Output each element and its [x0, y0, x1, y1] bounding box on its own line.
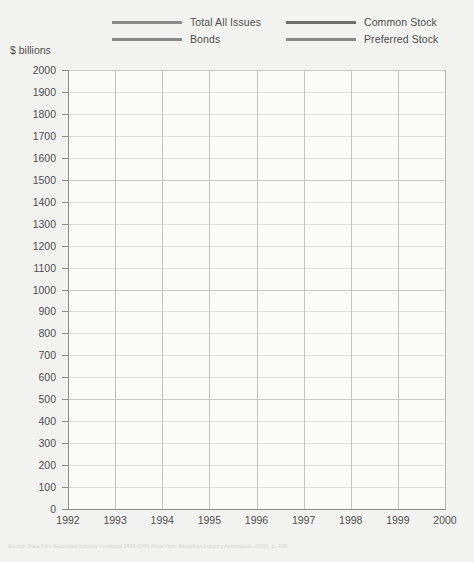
- y-tick-label: 2000: [33, 64, 56, 76]
- y-tick-label: 700: [38, 349, 56, 361]
- y-tick-label: 1900: [33, 86, 56, 98]
- x-tick-label: 1993: [103, 514, 126, 526]
- y-tick-label: 300: [38, 437, 56, 449]
- legend-swatch-line-icon: [286, 38, 356, 41]
- y-tick-label: 1200: [33, 240, 56, 252]
- gridline-vertical: [209, 70, 210, 510]
- y-tick-label: 0: [50, 503, 56, 515]
- legend-item-bonds: Bonds: [112, 33, 220, 45]
- legend-item-common-stock: Common Stock: [286, 16, 437, 28]
- legend-label: Bonds: [190, 33, 220, 45]
- chart-page: Total All Issues Bonds Common Stock Pref…: [0, 0, 474, 562]
- source-note: Source: Data from Securities Industry Ye…: [8, 543, 468, 549]
- y-tick-label: 1100: [33, 262, 56, 274]
- y-tick-label: 100: [38, 481, 56, 493]
- legend-item-preferred-stock: Preferred Stock: [286, 33, 438, 45]
- y-tick-label: 1000: [33, 284, 56, 296]
- y-tick-label: 800: [38, 327, 56, 339]
- y-tick-label: 600: [38, 371, 56, 383]
- legend-label: Common Stock: [364, 16, 437, 28]
- legend-swatch-line-icon: [112, 38, 182, 41]
- x-tick-label: 2000: [433, 514, 456, 526]
- legend-label: Total All Issues: [190, 16, 261, 28]
- gridline-vertical: [398, 70, 399, 510]
- gridline-vertical: [351, 70, 352, 510]
- legend-swatch-line-icon: [112, 21, 182, 24]
- y-tick-label: 1600: [33, 152, 56, 164]
- x-tick-label: 1999: [386, 514, 409, 526]
- gridline-vertical: [115, 70, 116, 510]
- y-tick-label: 1800: [33, 108, 56, 120]
- y-tick-label: 1400: [33, 196, 56, 208]
- legend-swatch-line-icon: [286, 21, 356, 24]
- y-tick-label: 1300: [33, 218, 56, 230]
- y-tick-label: 900: [38, 305, 56, 317]
- gridline-vertical: [304, 70, 305, 510]
- y-tick-label: 500: [38, 393, 56, 405]
- y-axis-title: $ billions: [10, 44, 51, 56]
- x-tick-label: 1996: [245, 514, 268, 526]
- x-tick-label: 1995: [198, 514, 221, 526]
- y-tick-label: 200: [38, 459, 56, 471]
- gridline-vertical: [257, 70, 258, 510]
- x-tick-label: 1998: [339, 514, 362, 526]
- x-tick-label: 1992: [56, 514, 79, 526]
- x-tick-label: 1997: [292, 514, 315, 526]
- gridline-vertical: [162, 70, 163, 510]
- x-axis-line: [68, 509, 446, 510]
- x-tick-label: 1994: [151, 514, 174, 526]
- y-tick-label: 1500: [33, 174, 56, 186]
- legend-label: Preferred Stock: [364, 33, 438, 45]
- y-axis-line: [68, 70, 69, 510]
- x-axis-ticks: 199219931994199519961997199819992000: [68, 514, 446, 534]
- plot-area: [68, 70, 446, 510]
- legend-item-total-all-issues: Total All Issues: [112, 16, 261, 28]
- y-tick-label: 400: [38, 415, 56, 427]
- y-tick-label: 1700: [33, 130, 56, 142]
- plot-right-border: [445, 70, 446, 510]
- chart-legend: Total All Issues Bonds Common Stock Pref…: [112, 16, 458, 50]
- y-axis-ticks: 2000190018001700160015001400130012001100…: [0, 70, 62, 510]
